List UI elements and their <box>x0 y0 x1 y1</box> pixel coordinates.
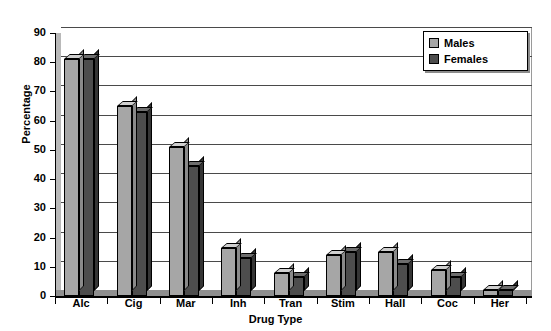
x-axis-category-label: Stim <box>313 297 373 309</box>
legend-item-females: Females <box>429 51 522 67</box>
bar-side-face <box>132 96 137 291</box>
bar-side-face <box>199 156 204 291</box>
bar-hall-males <box>378 252 393 296</box>
y-axis-tick-label: 40 <box>20 173 46 184</box>
bar-front-face <box>483 290 498 296</box>
bar-side-face <box>184 137 189 291</box>
bar-front-face <box>498 290 513 296</box>
bar-stim-males <box>326 255 341 296</box>
bar-chart: Percentage Drug Type 0102030405060708090… <box>0 0 551 331</box>
bar-front-face <box>169 147 184 296</box>
y-axis-tick-label: 20 <box>20 232 46 243</box>
y-axis-tick-label: 70 <box>20 85 46 96</box>
x-axis-category-label: Hall <box>365 297 425 309</box>
y-axis-tick-label: 80 <box>20 56 46 67</box>
bar-inh-males <box>221 248 236 296</box>
bar-front-face <box>274 273 289 296</box>
x-axis-title: Drug Type <box>0 313 551 325</box>
x-axis-tick <box>526 298 527 304</box>
x-axis-category-label: Cig <box>104 297 164 309</box>
y-axis-tick-label: 0 <box>20 290 46 301</box>
x-axis-category-label: Her <box>470 297 530 309</box>
legend-label-males: Males <box>444 37 475 49</box>
bar-front-face <box>117 106 132 296</box>
bar-side-face <box>79 49 84 291</box>
bar-mar-males <box>169 147 184 296</box>
bar-side-face <box>94 49 99 291</box>
bar-her-males <box>483 290 498 296</box>
x-axis-category-label: Mar <box>156 297 216 309</box>
gridline <box>61 27 532 28</box>
bar-front-face <box>64 59 79 296</box>
bar-front-face <box>221 248 236 296</box>
x-axis-category-label: Coc <box>418 297 478 309</box>
plot-frame-right <box>531 27 532 290</box>
y-axis-tick-label: 10 <box>20 261 46 272</box>
y-axis-tick-label: 90 <box>20 27 46 38</box>
gridline <box>61 85 532 86</box>
bar-her-females <box>498 290 513 296</box>
bar-cig-males <box>117 106 132 296</box>
bar-front-face <box>326 255 341 296</box>
bar-alc-males <box>64 59 79 296</box>
legend-swatch-females-icon <box>429 54 439 64</box>
y-axis-line <box>55 33 56 297</box>
legend-swatch-males-icon <box>429 38 439 48</box>
x-axis-category-label: Inh <box>208 297 268 309</box>
bar-side-face <box>289 263 294 291</box>
y-axis-tick-label: 30 <box>20 202 46 213</box>
y-axis-tick-label: 50 <box>20 144 46 155</box>
bar-front-face <box>431 270 446 296</box>
legend-label-females: Females <box>444 53 488 65</box>
chart-legend: Males Females <box>423 31 528 71</box>
x-axis-category-label: Alc <box>51 297 111 309</box>
bar-side-face <box>147 102 152 291</box>
bar-coc-males <box>431 270 446 296</box>
legend-item-males: Males <box>429 35 522 51</box>
bar-tran-males <box>274 273 289 296</box>
bar-front-face <box>378 252 393 296</box>
x-axis-category-label: Tran <box>261 297 321 309</box>
y-axis-tick-label: 60 <box>20 115 46 126</box>
